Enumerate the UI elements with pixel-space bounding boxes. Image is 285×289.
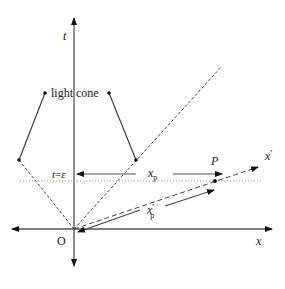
x-axis-label: x (255, 234, 262, 248)
light-cone-left-dashed (19, 160, 74, 229)
x-prime-axis-label: x′ (264, 148, 273, 163)
leader-dot (134, 158, 138, 162)
leader-dot (107, 91, 111, 95)
leader-dot (17, 158, 21, 162)
point-p-label: P (210, 154, 219, 168)
point-p (213, 179, 217, 183)
light-cone-label: light cone (51, 86, 99, 100)
light-cone-leader-left (19, 93, 45, 160)
spacetime-diagram: t x x′ O light cone t=ε P xp x′p (0, 0, 285, 289)
leader-dot (43, 91, 47, 95)
xpp-arrow-up (165, 190, 214, 206)
t-epsilon-label: t=ε (52, 168, 66, 180)
xpp-label: x′p (146, 202, 154, 220)
t-axis-label: t (63, 29, 67, 43)
xp-label: xp (147, 166, 157, 182)
light-cone-leader-right (109, 93, 136, 160)
origin-label: O (57, 234, 66, 248)
